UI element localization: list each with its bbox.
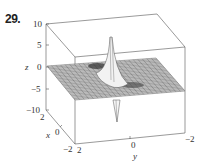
x-tick-0: 0 bbox=[55, 128, 60, 137]
z-tick-5: 5 bbox=[37, 41, 42, 50]
z-tick-10: 10 bbox=[33, 20, 42, 29]
y-axis-label: y bbox=[133, 152, 137, 161]
x-tick-minus2: −2 bbox=[63, 145, 73, 154]
y-tick-0: 0 bbox=[131, 141, 136, 150]
z-axis-label: z bbox=[25, 63, 29, 72]
y-tick-minus2: −2 bbox=[185, 135, 195, 144]
z-tick-0: 0 bbox=[37, 63, 42, 72]
surface-plot bbox=[0, 0, 205, 164]
surface-mesh bbox=[47, 37, 185, 122]
x-tick-2: 2 bbox=[40, 113, 45, 122]
x-axis-label: x bbox=[46, 131, 50, 140]
z-tick-minus5: −5 bbox=[31, 85, 41, 94]
z-tick-minus10: −10 bbox=[26, 106, 40, 115]
y-tick-2: 2 bbox=[77, 146, 82, 155]
